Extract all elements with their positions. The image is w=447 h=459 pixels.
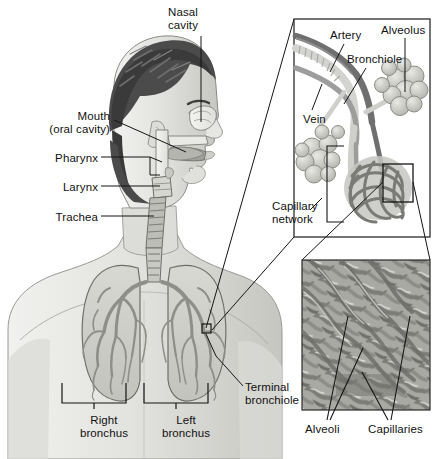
label-vein: Vein (303, 113, 326, 126)
label-mouth-oral-cavity: Mouth (oral cavity) (10, 110, 110, 136)
label-nasal-cavity: Nasal cavity (168, 6, 198, 32)
anatomy-illustration (0, 0, 447, 459)
label-left-bronchus: Left bronchus (138, 414, 234, 440)
label-capillaries: Capillaries (368, 423, 423, 436)
label-larynx: Larynx (10, 181, 98, 194)
label-trachea: Trachea (10, 211, 98, 224)
respiratory-system-figure: Nasal cavity Mouth (oral cavity) Pharynx… (0, 0, 447, 459)
label-alveoli: Alveoli (305, 423, 340, 436)
label-bronchiole: Bronchiole (347, 53, 402, 66)
label-pharynx: Pharynx (10, 152, 98, 165)
label-alveolus: Alveolus (381, 24, 425, 37)
label-capillary-network: Capillary network (272, 200, 318, 226)
label-terminal-bronchiole: Terminal bronchiole (245, 381, 299, 407)
label-artery: Artery (330, 29, 361, 42)
